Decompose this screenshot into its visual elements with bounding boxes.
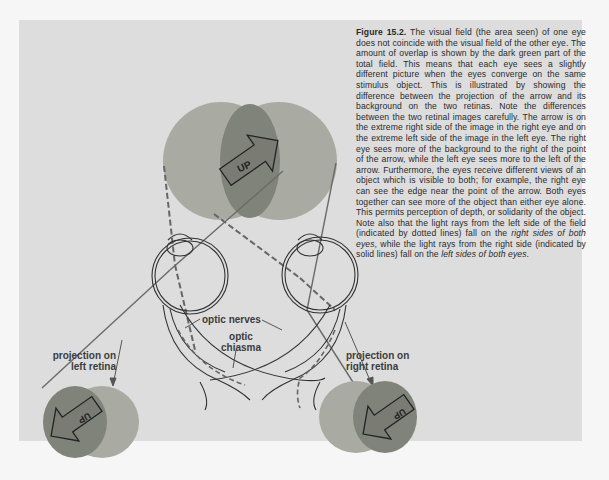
left-retina-line2: left retina — [52, 361, 116, 372]
right-retina-line1: projection on — [346, 350, 416, 361]
optic-chiasma-line2: chiasma — [221, 342, 261, 353]
figure-label: Figure 15.2. — [356, 27, 406, 37]
right-retina-label: projection on right retina — [346, 350, 416, 372]
right-retina-line2: right retina — [346, 361, 416, 372]
caption-text-3: . — [527, 249, 530, 259]
optic-chiasma-line1: optic — [221, 331, 261, 342]
optic-nerves-label: optic nerves — [202, 314, 261, 325]
left-retina-line1: projection on — [52, 350, 116, 361]
caption-italic-2: left sides of both eyes — [441, 249, 526, 259]
figure-caption: Figure 15.2. The visual field (the area … — [356, 27, 586, 260]
left-eye — [152, 234, 228, 314]
optic-chiasma-label: optic chiasma — [221, 331, 261, 353]
left-retina-label: projection on left retina — [52, 350, 116, 372]
caption-text-1: The visual field (the area seen) of one … — [356, 27, 586, 238]
